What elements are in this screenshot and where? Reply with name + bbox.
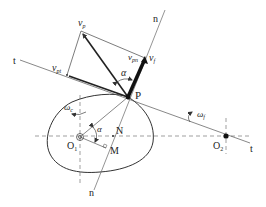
point-vpt: [66, 74, 68, 76]
normal-line: [94, 10, 165, 190]
omega-f-arrow: [188, 112, 192, 122]
label-alpha-top: α: [121, 67, 127, 78]
cam-follower-diagram: t t n n vp vpt vpn vf α α P N M O1 O2 ωc…: [0, 0, 266, 207]
label-n-bottom: n: [89, 187, 94, 198]
label-vf: vf: [149, 52, 156, 64]
point-n: [112, 135, 114, 137]
label-m-point: M: [110, 145, 119, 156]
vp-to-vpt-edge: [67, 31, 81, 75]
vp-vector: [83, 34, 128, 97]
label-alpha-bottom: α: [97, 124, 102, 134]
label-omega-f: ωf: [197, 109, 206, 120]
label-t-right: t: [250, 143, 253, 154]
label-vpn: vpn: [128, 52, 138, 63]
alpha-arc-top: [117, 79, 132, 82]
label-t-left: t: [13, 55, 16, 66]
label-vpt: vpt: [52, 62, 61, 74]
label-omega-c: ωc: [64, 102, 73, 113]
label-n-top: n: [153, 13, 158, 24]
label-p: P: [135, 89, 141, 101]
point-p: [126, 95, 131, 100]
omega-c-arrow: [72, 112, 86, 115]
point-o2: [223, 133, 228, 138]
label-n-point: N: [116, 125, 123, 136]
label-o1: O1: [67, 140, 77, 152]
vpt-vector: [69, 76, 128, 97]
label-o2: O2: [213, 140, 223, 152]
label-vp: vp: [78, 17, 85, 29]
o1-to-m-line: [80, 137, 106, 148]
